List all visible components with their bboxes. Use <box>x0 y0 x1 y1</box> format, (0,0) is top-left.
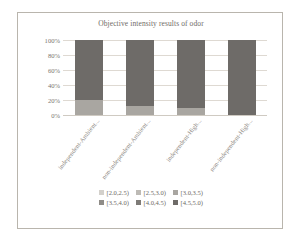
y-axis-tick-label: 60% <box>48 67 60 74</box>
legend-swatch-icon <box>173 200 178 205</box>
legend-item[interactable]: [4.0,4.5) <box>136 199 166 206</box>
chart-title: Objective intensity results of odor <box>18 19 284 28</box>
legend-label: [3.5,4.0) <box>106 199 129 206</box>
x-axis-category-text: non-independent-High... <box>208 117 254 172</box>
y-axis-tick-label: 80% <box>48 52 60 59</box>
legend-row-1: [2.0,2.5)[2.5,3.0)[3.0,3.5) <box>18 189 284 196</box>
y-axis-tick-label: 20% <box>48 97 60 104</box>
legend-item[interactable]: [3.5,4.0) <box>99 199 129 206</box>
x-axis-category-text: independent-High... <box>164 117 202 163</box>
legend-swatch-icon <box>99 200 104 205</box>
legend-item[interactable]: [4.5,5.0) <box>173 199 203 206</box>
legend-row-2: [3.5,4.0)[4.0,4.5)[4.5,5.0) <box>18 199 284 206</box>
legend-item[interactable]: [2.5,3.0) <box>136 189 166 196</box>
legend-label: [4.0,4.5) <box>143 199 166 206</box>
x-axis-line: 0% <box>63 115 267 116</box>
chart-figure: Objective intensity results of odor 100%… <box>0 0 300 243</box>
legend-swatch-icon <box>136 190 141 195</box>
legend-label: [3.0,3.5) <box>181 189 204 196</box>
bar-1 <box>75 40 103 115</box>
legend-swatch-icon <box>173 190 178 195</box>
bar-segment <box>75 40 103 100</box>
legend-item[interactable]: [2.0,2.5) <box>99 189 129 196</box>
legend-swatch-icon <box>136 200 141 205</box>
chart-legend: [2.0,2.5)[2.5,3.0)[3.0,3.5) [3.5,4.0)[4.… <box>18 189 284 209</box>
legend-item[interactable]: [3.0,3.5) <box>173 189 203 196</box>
legend-swatch-icon <box>99 190 104 195</box>
legend-label: [2.5,3.0) <box>143 189 166 196</box>
legend-label: [4.5,5.0) <box>181 199 204 206</box>
chart-frame: Objective intensity results of odor 100%… <box>17 12 283 229</box>
x-axis-category-text: non-independent-Ambient... <box>99 117 151 180</box>
y-axis-tick-label: 40% <box>48 82 60 89</box>
y-axis-tick-label: 0% <box>51 112 60 119</box>
legend-label: [2.0,2.5) <box>106 189 129 196</box>
y-axis-tick-label: 100% <box>45 37 60 44</box>
x-axis-labels: independent-Ambient...non-independent-Am… <box>63 117 267 187</box>
x-axis-category-text: independent-Ambient... <box>56 117 100 171</box>
